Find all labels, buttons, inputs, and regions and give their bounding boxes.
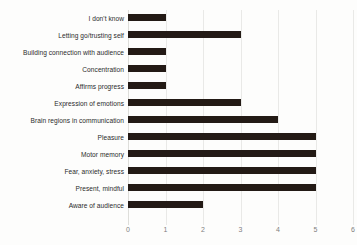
bar-row[interactable] xyxy=(128,44,353,61)
gridline-6 xyxy=(353,10,354,225)
x-tick-label-3: 3 xyxy=(231,226,251,233)
bar-row[interactable] xyxy=(128,61,353,78)
bar-row[interactable] xyxy=(128,78,353,95)
bar-chart: I don't knowLetting go/trusting selfBuil… xyxy=(0,0,357,245)
category-label: I don't know xyxy=(0,10,124,27)
x-tick-label-2: 2 xyxy=(193,226,213,233)
bar[interactable] xyxy=(128,201,203,208)
category-label: Expression of emotions xyxy=(0,95,124,112)
bar-row[interactable] xyxy=(128,112,353,129)
bar-row[interactable] xyxy=(128,10,353,27)
category-label: Letting go/trusting self xyxy=(0,27,124,44)
bar[interactable] xyxy=(128,133,316,140)
bar[interactable] xyxy=(128,167,316,174)
bar[interactable] xyxy=(128,99,241,106)
category-label: Motor memory xyxy=(0,146,124,163)
bar[interactable] xyxy=(128,82,166,89)
plot-area xyxy=(128,10,353,225)
category-axis-labels: I don't knowLetting go/trusting selfBuil… xyxy=(0,10,124,225)
category-label: Building connection with audience xyxy=(0,44,124,61)
category-label: Concentration xyxy=(0,61,124,78)
category-label: Present, mindful xyxy=(0,180,124,197)
bar-row[interactable] xyxy=(128,129,353,146)
chart-title xyxy=(0,0,357,2)
x-tick-label-1: 1 xyxy=(156,226,176,233)
category-label: Pleasure xyxy=(0,129,124,146)
bar-row[interactable] xyxy=(128,197,353,214)
bar-row[interactable] xyxy=(128,146,353,163)
bar[interactable] xyxy=(128,150,316,157)
x-tick-label-6: 6 xyxy=(343,226,357,233)
value-axis-labels: 0123456 xyxy=(128,226,353,240)
bar-row[interactable] xyxy=(128,95,353,112)
category-label: Brain regions in communication xyxy=(0,112,124,129)
bar[interactable] xyxy=(128,14,166,21)
x-tick-label-5: 5 xyxy=(306,226,326,233)
x-tick-label-4: 4 xyxy=(268,226,288,233)
bars-layer xyxy=(128,10,353,225)
category-label: Aware of audience xyxy=(0,197,124,214)
bar-row[interactable] xyxy=(128,163,353,180)
category-label: Fear, anxiety, stress xyxy=(0,163,124,180)
category-label: Affirms progress xyxy=(0,78,124,95)
bar[interactable] xyxy=(128,184,316,191)
bar[interactable] xyxy=(128,116,278,123)
bar[interactable] xyxy=(128,31,241,38)
bar-row[interactable] xyxy=(128,180,353,197)
bar-row[interactable] xyxy=(128,27,353,44)
bar[interactable] xyxy=(128,48,166,55)
bar[interactable] xyxy=(128,65,166,72)
x-tick-label-0: 0 xyxy=(118,226,138,233)
